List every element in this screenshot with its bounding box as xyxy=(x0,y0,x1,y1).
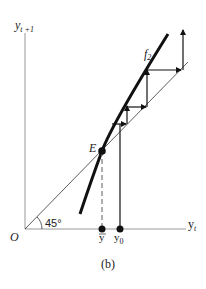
f2-label: f2 xyxy=(144,47,151,62)
x-axis-label: yt xyxy=(188,217,197,233)
angle-label: 45° xyxy=(45,217,62,229)
figure-caption: (b) xyxy=(101,257,115,271)
y0-label: y0 xyxy=(114,231,124,246)
equilibrium-label: E xyxy=(88,141,97,155)
origin-label: O xyxy=(10,230,19,244)
y-axis-label: yt +1 xyxy=(14,18,34,34)
ybar-label: y xyxy=(99,231,105,243)
forty-five-degree-line xyxy=(25,62,188,229)
angle-arc xyxy=(37,217,42,229)
equilibrium-point xyxy=(98,147,106,155)
cobweb-diagram: yt +1 yt O 45° f2 E y y0 (b) xyxy=(0,0,206,289)
